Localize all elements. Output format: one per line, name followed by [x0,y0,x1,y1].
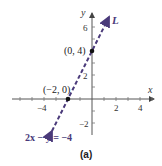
x-tick-label-2: 2 [114,103,119,113]
x-axis-label: x [147,84,153,95]
graph-figure: −4 2 4 6 2 −2 x y (0, 4) (−2, 0) L 2x − … [0,0,162,166]
y-tick-label-2: 2 [83,71,88,81]
coordinate-plane: −4 2 4 6 2 −2 x y (0, 4) (−2, 0) L 2x − … [0,0,162,166]
equation-label: 2x − y = −4 [25,132,72,143]
point-0-4 [90,49,95,54]
figure-caption: (a) [80,149,92,160]
point-label-0-4: (0, 4) [64,45,86,57]
y-axis-label: y [80,7,86,18]
y-tick-label-6: 6 [83,23,88,33]
y-tick-label-neg2: −2 [79,119,89,129]
x-tick-label-neg4: −4 [37,103,47,113]
line-name-label: L [111,14,119,26]
point-neg2-0 [66,97,71,102]
x-tick-label-4: 4 [138,103,143,113]
point-label-neg2-0: (−2, 0) [43,84,70,96]
line-L [52,17,109,131]
